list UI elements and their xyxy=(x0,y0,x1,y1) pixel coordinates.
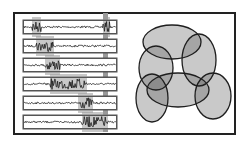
signal-strip xyxy=(23,93,117,113)
signal-strip xyxy=(23,112,117,132)
signal-strip xyxy=(23,17,117,37)
diagram-canvas xyxy=(0,0,250,147)
signal-strip xyxy=(23,55,117,75)
signal-strip xyxy=(23,74,117,94)
signal-strips-panel xyxy=(23,13,117,132)
overlapping-ellipses-panel xyxy=(136,25,231,122)
signal-strip xyxy=(23,36,117,56)
